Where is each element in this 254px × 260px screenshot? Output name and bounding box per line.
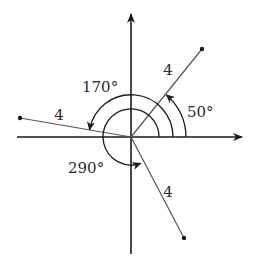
magnitude-label-170: 4 xyxy=(54,106,64,124)
vector-endpoint xyxy=(182,236,186,240)
vector-290deg xyxy=(131,137,186,240)
vector-diagram: 4 4 4 50° 170° 290° xyxy=(0,0,254,260)
vector-170deg xyxy=(18,116,131,137)
angle-label-170: 170° xyxy=(82,78,118,96)
angle-label-50: 50° xyxy=(187,103,214,121)
vector-endpoint xyxy=(18,116,22,120)
vector-endpoint xyxy=(200,47,204,51)
magnitude-label-50: 4 xyxy=(163,61,173,79)
angle-label-290: 290° xyxy=(68,159,104,177)
angle-arc-50 xyxy=(166,95,186,137)
magnitude-label-290: 4 xyxy=(163,183,173,201)
